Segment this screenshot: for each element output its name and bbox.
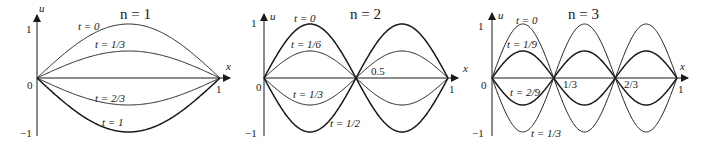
curve-label-t2: t = 2/3	[95, 92, 126, 104]
curve-label-t0: t = 0	[78, 20, 100, 32]
tick-one-third: 1/3	[563, 78, 578, 90]
curve-label-t2: t = 2/9	[510, 86, 541, 98]
curve-label-t1: t = 1/9	[507, 38, 538, 50]
y-axis-label: u	[39, 2, 45, 14]
curve-label-t2: t = 1/3	[293, 88, 324, 100]
y-axis-label: u	[270, 10, 276, 22]
panel-n1: n = 1 u x 0 1 1 −1 t = 0 t = 1/3 t = 2/3…	[20, 2, 231, 139]
panel-title: n = 2	[350, 6, 381, 22]
curve-label-t3: t = 1/3	[531, 127, 562, 139]
tick-y-top: 1	[478, 20, 484, 32]
curve-label-t3: t = 1/2	[330, 117, 361, 129]
x-axis-label: x	[225, 60, 231, 72]
y-axis-label: u	[498, 9, 504, 21]
curve-label-t0: t = 0	[516, 14, 538, 26]
tick-origin: 0	[256, 81, 262, 93]
curve-label-t1: t = 1/3	[95, 38, 126, 50]
tick-x-end: 1	[216, 83, 222, 95]
panel-title: n = 1	[120, 6, 151, 22]
tick-origin: 0	[481, 79, 487, 91]
tick-y-bottom: −1	[20, 127, 32, 139]
tick-midpoint: 0.5	[371, 65, 385, 77]
panel-n3: n = 3 u x 0 1 1 −1 1/3 2/3 t = 0 t = 1/9…	[472, 6, 688, 139]
tick-y-top: 1	[26, 23, 32, 35]
tick-y-bottom: −1	[472, 127, 484, 139]
wave-curve	[37, 78, 220, 105]
x-axis-label: x	[679, 60, 685, 72]
tick-y-top: 1	[251, 17, 257, 29]
curve-label-t1: t = 1/6	[291, 38, 322, 50]
tick-origin: 0	[27, 79, 33, 91]
curve-label-t0: t = 0	[294, 12, 316, 24]
tick-x-end: 1	[678, 83, 684, 95]
standing-waves-figure: n = 1 u x 0 1 1 −1 t = 0 t = 1/3 t = 2/3…	[0, 0, 710, 148]
tick-y-bottom: −1	[245, 127, 257, 139]
tick-x-end: 1	[449, 83, 455, 95]
tick-two-thirds: 2/3	[624, 78, 639, 90]
x-axis-label: x	[462, 62, 468, 74]
curve-label-t3: t = 1	[102, 116, 123, 128]
panel-n2: n = 2 u x 0 1 1 −1 0.5 t = 0 t = 1/6 t =…	[245, 6, 468, 139]
panel-title: n = 3	[568, 6, 599, 22]
wave-curve	[37, 51, 220, 78]
